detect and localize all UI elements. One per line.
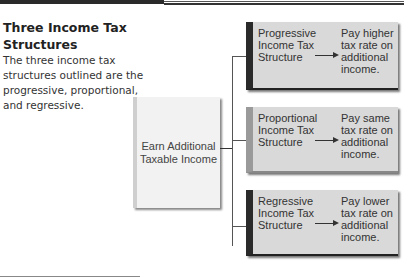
branch-name: Progressive Income Tax Structure (258, 27, 328, 63)
branch-name: Regressive Income Tax Structure (258, 195, 328, 231)
connector-vertical (232, 56, 233, 246)
branch-result: Pay same tax rate on additional income. (341, 112, 396, 160)
branch-box-progressive: Progressive Income Tax Structure Pay hig… (246, 22, 398, 90)
branch-box-regressive: Regressive Income Tax Structure Pay lowe… (246, 190, 398, 256)
header-bar-dark (0, 0, 164, 4)
header-rule (164, 1, 404, 2)
branch-name: Proportional Income Tax Structure (258, 112, 330, 148)
footer-rule (0, 276, 140, 277)
connector-branch-1 (232, 56, 246, 57)
section-description: The three income tax structures outlined… (3, 53, 153, 113)
arrow-icon (315, 140, 337, 141)
branch-box-proportional: Proportional Income Tax Structure Pay sa… (246, 107, 398, 173)
source-label: Earn Additional Taxable Income (137, 140, 220, 166)
connector-branch-2 (232, 140, 246, 141)
connector-main (220, 148, 232, 149)
branch-result: Pay higher tax rate on additional income… (341, 27, 396, 75)
arrow-icon (315, 223, 337, 224)
connector-branch-3 (232, 226, 246, 227)
source-box: Earn Additional Taxable Income (133, 97, 220, 208)
branch-result: Pay lower tax rate on additional income. (341, 195, 396, 243)
header-rule-thick (164, 3, 404, 5)
arrow-icon (315, 55, 337, 56)
section-title: Three Income Tax Structures (3, 19, 153, 53)
